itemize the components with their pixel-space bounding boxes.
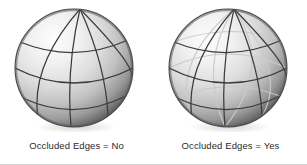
- sphere-right-graphic: [168, 6, 292, 132]
- sphere-left-graphic: [14, 6, 138, 132]
- sphere-left: [14, 6, 138, 132]
- panel-occluded-edges-no: Occluded Edges = No: [0, 0, 153, 165]
- panel-occluded-edges-yes: Occluded Edges = Yes: [154, 0, 307, 165]
- occluded-edges-comparison-figure: Occluded Edges = No: [0, 0, 307, 165]
- sphere-right: [168, 6, 292, 132]
- caption-occluded-edges-no: Occluded Edges = No: [0, 139, 153, 152]
- caption-occluded-edges-yes: Occluded Edges = Yes: [154, 139, 307, 152]
